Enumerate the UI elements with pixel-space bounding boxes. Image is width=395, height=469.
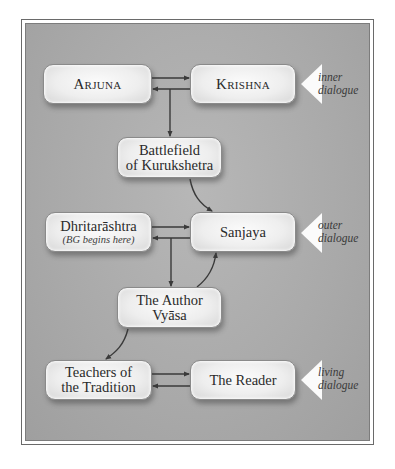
inner-dialogue-line2: dialogue xyxy=(318,84,358,97)
node-arjuna-label: Arjuna xyxy=(73,77,121,92)
node-teachers: Teachers of the Tradition xyxy=(45,360,152,400)
node-battlefield-line1: Battlefield xyxy=(139,143,200,158)
node-sanjaya: Sanjaya xyxy=(190,212,296,252)
living-dialogue-line1: living xyxy=(318,366,358,379)
node-krishna-label: Krishna xyxy=(216,77,270,92)
outer-dialogue-line2: dialogue xyxy=(318,232,358,245)
node-teachers-line2: the Tradition xyxy=(61,380,136,395)
living-dialogue-label: living dialogue xyxy=(318,366,358,391)
outer-dialogue-line1: outer xyxy=(318,219,358,232)
node-author: The Author Vyāsa xyxy=(117,287,222,328)
node-battlefield: Battlefield of Kurukshetra xyxy=(117,137,222,178)
node-battlefield-line2: of Kurukshetra xyxy=(126,158,213,173)
node-arjuna: Arjuna xyxy=(43,64,152,104)
node-krishna: Krishna xyxy=(190,64,296,104)
node-reader: The Reader xyxy=(190,360,296,400)
inner-dialogue-label: inner dialogue xyxy=(318,71,358,96)
outer-dialogue-label: outer dialogue xyxy=(318,219,358,244)
edge-battlefield-to-sanjaya xyxy=(190,179,212,211)
node-dhritarashtra-label: Dhritarāshtra xyxy=(60,219,137,234)
node-teachers-line1: Teachers of xyxy=(65,365,132,380)
node-author-line1: The Author xyxy=(136,293,202,308)
node-reader-label: The Reader xyxy=(209,373,276,388)
node-author-line2: Vyāsa xyxy=(152,308,187,323)
inner-dialogue-line1: inner xyxy=(318,71,358,84)
node-dhritarashtra-note: (BG begins here) xyxy=(63,234,135,246)
living-dialogue-line2: dialogue xyxy=(318,379,358,392)
edge-author-to-teachers xyxy=(106,329,128,359)
edge-author-to-sanjaya xyxy=(197,253,216,287)
node-dhritarashtra: Dhritarāshtra (BG begins here) xyxy=(45,212,152,252)
node-sanjaya-label: Sanjaya xyxy=(220,225,266,240)
